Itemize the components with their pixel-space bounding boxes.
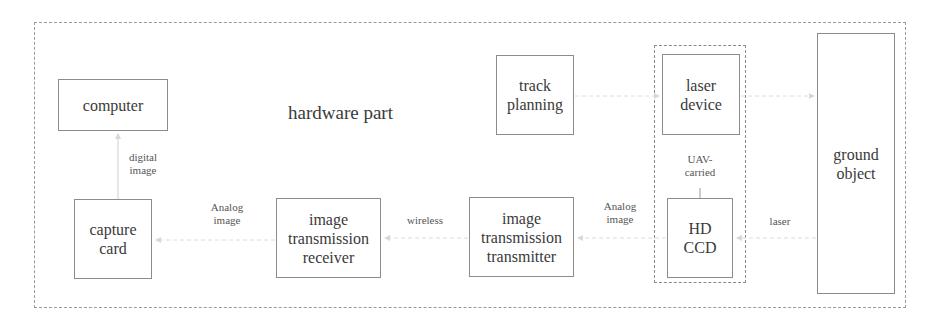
laser-device-node: laser device — [662, 54, 740, 135]
laser-device-label: laser device — [680, 76, 722, 114]
analog-image-right-label: Analog image — [595, 200, 645, 226]
capture-card-node: capture card — [74, 199, 152, 279]
hd-ccd-node: HD CCD — [667, 198, 733, 278]
hardware-part-title: hardware part — [288, 102, 393, 124]
wireless-label: wireless — [400, 214, 450, 227]
capture-card-label: capture card — [89, 220, 136, 258]
hd-ccd-label: HD CCD — [684, 219, 717, 257]
receiver-label: image transmission receiver — [288, 210, 369, 267]
transmitter-label: image transmission transmitter — [481, 209, 562, 266]
track-planning-node: track planning — [496, 55, 574, 135]
ground-object-label: ground object — [833, 145, 878, 183]
image-transmission-transmitter-node: image transmission transmitter — [469, 197, 574, 277]
computer-node: computer — [58, 79, 168, 131]
digital-image-label: digital image — [120, 151, 166, 177]
computer-label: computer — [83, 96, 143, 115]
laser-label: laser — [760, 215, 800, 228]
track-planning-label: track planning — [507, 76, 563, 114]
ground-object-node: ground object — [817, 33, 895, 294]
image-transmission-receiver-node: image transmission receiver — [276, 198, 381, 278]
analog-image-left-label: Analog image — [202, 201, 252, 227]
uav-carried-label: UAV- carried — [674, 153, 726, 179]
